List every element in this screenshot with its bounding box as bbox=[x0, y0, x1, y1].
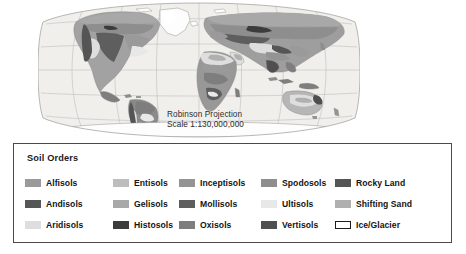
legend-item-label: Andisols bbox=[46, 199, 83, 209]
legend-item[interactable]: Andisols bbox=[25, 199, 113, 209]
map-annotation: Robinson Projection Scale 1:130,000,000 bbox=[167, 110, 244, 129]
legend-swatch bbox=[25, 221, 41, 229]
legend-swatch bbox=[261, 200, 277, 208]
legend-item-label: Gelisols bbox=[134, 199, 168, 209]
legend-swatch bbox=[179, 179, 195, 187]
legend-item[interactable]: Oxisols bbox=[179, 220, 261, 230]
legend-item[interactable]: Spodosols bbox=[261, 178, 335, 188]
legend-item-label: Ultisols bbox=[282, 199, 313, 209]
soil-orders-figure: Robinson Projection Scale 1:130,000,000 … bbox=[0, 0, 466, 254]
scale-label: Scale 1:130,000,000 bbox=[167, 120, 244, 130]
legend-item-label: Spodosols bbox=[282, 178, 326, 188]
legend-item-label: Mollisols bbox=[200, 199, 237, 209]
legend-item-label: Shifting Sand bbox=[356, 199, 412, 209]
legend-swatch bbox=[113, 221, 129, 229]
legend-swatch bbox=[335, 179, 351, 187]
legend-swatch bbox=[113, 179, 129, 187]
legend-swatch bbox=[261, 221, 277, 229]
legend-swatch bbox=[261, 179, 277, 187]
legend-item-label: Entisols bbox=[134, 178, 168, 188]
legend-swatch bbox=[179, 200, 195, 208]
legend-item-label: Rocky Land bbox=[356, 178, 405, 188]
legend-swatch bbox=[335, 200, 351, 208]
legend-item[interactable]: Shifting Sand bbox=[335, 199, 431, 209]
legend-swatch bbox=[179, 221, 195, 229]
legend-item[interactable]: Vertisols bbox=[261, 220, 335, 230]
legend-swatch bbox=[335, 221, 351, 229]
legend-panel: Soil Orders AlfisolsEntisolsInceptisolsS… bbox=[13, 143, 452, 243]
projection-label: Robinson Projection bbox=[167, 110, 244, 120]
legend-grid: AlfisolsEntisolsInceptisolsSpodosolsRock… bbox=[25, 172, 445, 235]
legend-swatch bbox=[113, 200, 129, 208]
legend-item[interactable]: Ice/Glacier bbox=[335, 220, 431, 230]
legend-item[interactable]: Mollisols bbox=[179, 199, 261, 209]
legend-swatch bbox=[25, 179, 41, 187]
legend-item[interactable]: Rocky Land bbox=[335, 178, 431, 188]
legend-item[interactable]: Inceptisols bbox=[179, 178, 261, 188]
legend-title: Soil Orders bbox=[27, 153, 78, 163]
legend-item-label: Histosols bbox=[134, 220, 173, 230]
legend-item[interactable]: Histosols bbox=[113, 220, 179, 230]
legend-item-label: Inceptisols bbox=[200, 178, 245, 188]
legend-item-label: Ice/Glacier bbox=[356, 220, 400, 230]
legend-item-label: Vertisols bbox=[282, 220, 318, 230]
legend-item-label: Aridisols bbox=[46, 220, 83, 230]
legend-item-label: Oxisols bbox=[200, 220, 231, 230]
legend-item[interactable]: Gelisols bbox=[113, 199, 179, 209]
legend-item[interactable]: Ultisols bbox=[261, 199, 335, 209]
legend-item[interactable]: Alfisols bbox=[25, 178, 113, 188]
legend-item-label: Alfisols bbox=[46, 178, 77, 188]
legend-swatch bbox=[25, 200, 41, 208]
legend-item[interactable]: Aridisols bbox=[25, 220, 113, 230]
legend-item[interactable]: Entisols bbox=[113, 178, 179, 188]
